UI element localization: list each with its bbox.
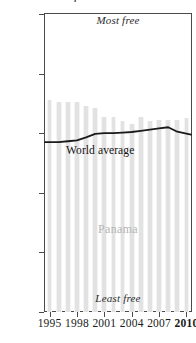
world-average-line-layer bbox=[0, 0, 196, 343]
world-average-line bbox=[45, 127, 191, 142]
economic-freedom-chart: Economic freedom in Panama 020406080100 … bbox=[0, 0, 196, 343]
